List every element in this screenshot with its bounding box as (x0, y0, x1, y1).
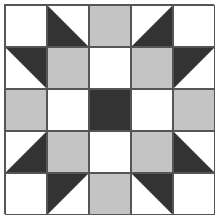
quilt-cell-3-2 (89, 131, 131, 173)
quilt-cell-2-0 (5, 89, 47, 131)
quilt-cell-4-1 (47, 173, 89, 215)
half-square-triangle-icon (174, 132, 214, 172)
quilt-cell-3-3 (131, 131, 173, 173)
half-square-triangle-icon (132, 174, 172, 214)
quilt-cell-4-0 (5, 173, 47, 215)
quilt-cell-0-0 (5, 5, 47, 47)
quilt-cell-2-3 (131, 89, 173, 131)
quilt-cell-4-4 (173, 173, 215, 215)
quilt-cell-3-1 (47, 131, 89, 173)
half-square-triangle-icon (48, 6, 88, 46)
quilt-cell-2-4 (173, 89, 215, 131)
quilt-cell-4-2 (89, 173, 131, 215)
quilt-block (4, 4, 214, 214)
quilt-cell-0-4 (173, 5, 215, 47)
quilt-cell-1-4 (173, 47, 215, 89)
quilt-cell-1-3 (131, 47, 173, 89)
quilt-cell-3-4 (173, 131, 215, 173)
quilt-cell-2-1 (47, 89, 89, 131)
half-square-triangle-icon (132, 6, 172, 46)
quilt-cell-0-3 (131, 5, 173, 47)
quilt-cell-0-1 (47, 5, 89, 47)
quilt-cell-1-0 (5, 47, 47, 89)
half-square-triangle-icon (6, 132, 46, 172)
half-square-triangle-icon (6, 48, 46, 88)
quilt-cell-2-2 (89, 89, 131, 131)
quilt-cell-1-2 (89, 47, 131, 89)
half-square-triangle-icon (174, 48, 214, 88)
quilt-cell-1-1 (47, 47, 89, 89)
quilt-cell-3-0 (5, 131, 47, 173)
quilt-cell-0-2 (89, 5, 131, 47)
quilt-cell-4-3 (131, 173, 173, 215)
half-square-triangle-icon (48, 174, 88, 214)
